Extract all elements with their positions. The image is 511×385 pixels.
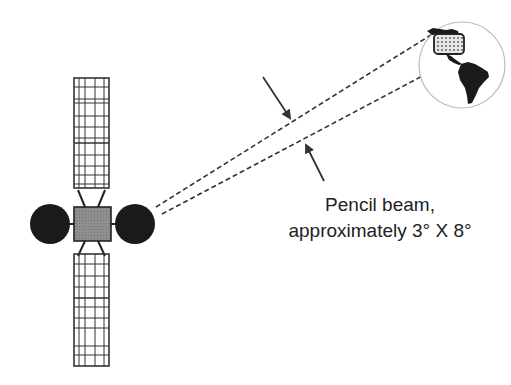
coverage-area bbox=[434, 34, 464, 54]
pencil-beam bbox=[156, 33, 447, 214]
beam-edge-upper bbox=[156, 33, 434, 207]
caption-line-2: approximately 3° X 8° bbox=[250, 219, 510, 243]
satellite-body bbox=[74, 207, 111, 241]
solar-panel-top bbox=[74, 78, 109, 188]
panel-yoke-top bbox=[78, 190, 105, 207]
beam-width-arrow-lower bbox=[306, 145, 324, 181]
antenna-dish-left bbox=[30, 204, 70, 244]
earth-globe bbox=[419, 22, 505, 108]
caption-line-1: Pencil beam, bbox=[285, 193, 475, 217]
beam-width-arrow-upper bbox=[263, 77, 290, 118]
antenna-dish-right bbox=[115, 204, 155, 244]
beam-edge-lower bbox=[162, 63, 447, 214]
solar-panel-bottom bbox=[74, 254, 109, 366]
